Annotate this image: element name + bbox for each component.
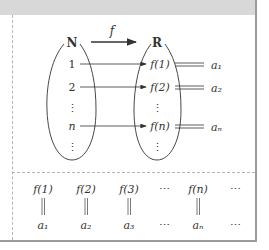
seq-top-3: f(3) — [118, 183, 139, 196]
domain-element-n: n — [68, 120, 75, 133]
seq-top-ellipsis-2: ⋯ — [230, 183, 241, 196]
element-arrows — [80, 64, 146, 126]
seq-bottom-n: aₙ — [192, 219, 203, 232]
set-label-N: N — [67, 36, 78, 50]
domain-element-2: 2 — [69, 81, 76, 94]
set-label-R: R — [152, 36, 163, 50]
seq-bottom-ellipsis-1: ⋯ — [159, 219, 170, 232]
domain-element-1: 1 — [69, 58, 76, 71]
function-mapping-diagram: f N 1 2 ⋮ n ⋮ R f(1) f(2) ⋮ f(n) ⋮ a₁ a₂… — [0, 0, 269, 250]
target-a1: a₁ — [211, 59, 222, 72]
seq-top-2: f(2) — [75, 183, 96, 196]
target-an: aₙ — [211, 121, 222, 134]
seq-top-n: f(n) — [187, 183, 208, 196]
codomain-set-R: R f(1) f(2) ⋮ f(n) ⋮ — [134, 36, 181, 160]
domain-vdots-2: ⋮ — [67, 141, 78, 154]
domain-vdots-1: ⋮ — [67, 102, 78, 115]
codomain-element-f2: f(2) — [149, 81, 170, 94]
seq-top-1: f(1) — [32, 183, 53, 196]
seq-bottom-ellipsis-2: ⋯ — [230, 219, 241, 232]
mapping-arrow-f: f — [91, 24, 136, 42]
seq-bottom-2: a₂ — [81, 219, 92, 232]
domain-set-N: N 1 2 ⋮ n ⋮ — [47, 36, 96, 160]
codomain-vdots-1: ⋮ — [152, 102, 163, 115]
sequence-table: f(1) f(2) f(3) ⋯ f(n) ⋯ a₁ a₂ a₃ ⋯ aₙ ⋯ — [32, 183, 240, 232]
seq-bottom-1: a₁ — [38, 219, 49, 232]
equality-connectors: a₁ a₂ aₙ — [175, 59, 222, 134]
target-a2: a₂ — [211, 82, 222, 95]
codomain-element-f1: f(1) — [149, 58, 170, 71]
seq-top-ellipsis-1: ⋯ — [159, 183, 170, 196]
codomain-vdots-2: ⋮ — [152, 141, 163, 154]
codomain-element-fn: f(n) — [149, 120, 170, 133]
seq-bottom-3: a₃ — [124, 219, 135, 232]
arrow-label-f: f — [109, 24, 117, 38]
